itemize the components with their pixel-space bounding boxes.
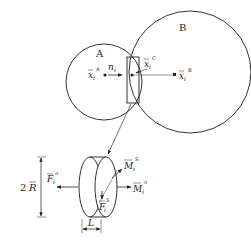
contact-label: x i C <box>144 55 156 70</box>
center-a-label: x i A <box>88 66 100 81</box>
normal-force-label: F i n <box>46 170 58 185</box>
svg-text:n: n <box>144 179 147 185</box>
length-label: L <box>87 218 94 228</box>
svg-text:i: i <box>133 165 135 172</box>
center-b-point <box>173 73 176 76</box>
svg-text:i: i <box>53 178 55 185</box>
svg-text:S: S <box>106 197 110 203</box>
normal-moment-label: M i n <box>132 179 147 195</box>
svg-text:R: R <box>28 182 37 193</box>
contact-diagram: A B x i A n i x i C x i B <box>0 0 251 249</box>
diameter-label: 2 R <box>20 182 37 193</box>
center-b-label: x i B <box>179 67 192 82</box>
contact-pointer <box>136 69 147 73</box>
normal-label: n i <box>108 62 116 73</box>
svg-text:i: i <box>184 75 186 82</box>
contact-disc <box>79 157 117 217</box>
sphere-b-label: B <box>179 22 186 33</box>
svg-text:i: i <box>93 74 95 81</box>
sphere-a <box>66 44 142 120</box>
center-a-point <box>103 73 106 76</box>
svg-text:i: i <box>142 188 144 195</box>
zoom-pointer-arrow <box>108 104 131 154</box>
sphere-a-label: A <box>95 48 104 59</box>
shear-moment-label: M i S <box>123 156 139 172</box>
svg-text:n: n <box>55 170 58 176</box>
svg-text:B: B <box>188 67 192 73</box>
svg-text:A: A <box>95 66 100 72</box>
svg-text:2: 2 <box>20 182 26 193</box>
svg-text:i: i <box>104 206 106 213</box>
svg-text:i: i <box>149 63 151 70</box>
svg-text:i: i <box>114 66 116 73</box>
svg-text:C: C <box>152 55 156 61</box>
svg-text:S: S <box>135 156 139 162</box>
